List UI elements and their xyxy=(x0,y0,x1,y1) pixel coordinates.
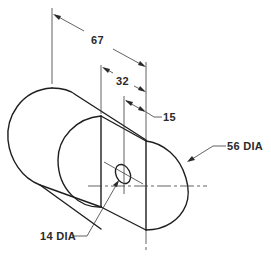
extension-lines xyxy=(52,8,146,160)
back-end-arc xyxy=(8,88,101,229)
dim-56-dia-label: 56 DIA xyxy=(227,140,263,152)
front-face-right-arc xyxy=(146,141,188,230)
bottom-silhouette-line xyxy=(101,207,146,230)
dim-15-label: 15 xyxy=(163,111,176,123)
cylinder-body xyxy=(8,88,188,230)
dim-14-dia-label: 14 DIA xyxy=(40,230,76,242)
top-silhouette-line xyxy=(52,88,146,140)
dimension-32: 32 xyxy=(102,67,146,92)
dimension-67: 67 xyxy=(53,14,146,67)
dim-67-label: 67 xyxy=(91,34,104,46)
leader-56-dia: 56 DIA xyxy=(187,140,263,162)
dimension-15: 15 xyxy=(125,100,176,123)
hole-ellipse xyxy=(112,162,133,186)
cylinder-drawing: 67 32 15 56 DIA 14 DIA xyxy=(0,0,271,259)
flat-top-edge xyxy=(101,116,146,141)
flat-bottom-left-link xyxy=(40,185,101,207)
center-lines xyxy=(88,160,207,252)
dim-32-label: 32 xyxy=(116,75,129,87)
